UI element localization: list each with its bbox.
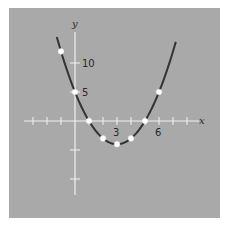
y-axis-label: y [71, 18, 78, 29]
data-point [156, 89, 162, 95]
data-point [58, 49, 64, 55]
data-point [86, 118, 92, 124]
y-tick-label-10: 10 [82, 58, 95, 69]
x-tick-label-6: 6 [155, 127, 161, 138]
data-point [72, 89, 78, 95]
data-point [128, 136, 134, 142]
data-point [114, 141, 120, 147]
x-tick-label-3: 3 [113, 127, 119, 138]
data-point [100, 136, 106, 142]
data-point [142, 118, 148, 124]
axes [24, 32, 199, 195]
x-axis-label: x [199, 115, 205, 126]
parabola-chart: y x 10 5 3 6 [0, 0, 232, 235]
y-tick-label-5: 5 [82, 87, 88, 98]
